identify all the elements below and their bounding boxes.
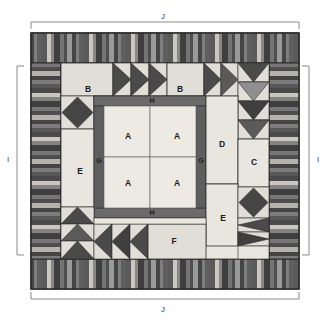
patch-E-right xyxy=(206,184,238,246)
diamond-block-top-left xyxy=(61,96,94,129)
border-strip-top xyxy=(31,33,299,63)
flying-geese-right-down-group xyxy=(238,63,269,139)
border-strip-bottom xyxy=(31,259,299,289)
patch-B-top-left xyxy=(61,63,113,96)
filler-below-center xyxy=(94,218,206,224)
patch-B-top-right xyxy=(167,63,204,96)
flying-geese-top-group xyxy=(113,63,167,96)
border-strip-left xyxy=(31,63,61,259)
dimension-bracket-right xyxy=(302,66,309,255)
patch-E-left xyxy=(61,129,98,207)
dimension-bracket-top xyxy=(31,22,299,29)
quilt-illustration: B B xyxy=(0,0,326,322)
sashing-G-left xyxy=(94,106,104,208)
flying-geese-bottom-right-group xyxy=(238,218,269,246)
sashing-H-bottom xyxy=(94,208,206,218)
dimension-bracket-left xyxy=(17,66,24,255)
dimension-label-right: I xyxy=(312,156,324,164)
dimension-label-top: J xyxy=(0,13,326,21)
sashing-H-top xyxy=(94,96,206,106)
patch-A-bottom-left xyxy=(104,157,150,208)
patch-D xyxy=(206,96,238,184)
patch-A-top-left xyxy=(104,106,150,157)
patch-A-bottom-right xyxy=(150,157,196,208)
diamond-block-bottom-right xyxy=(238,187,269,218)
quilt-assembly-diagram: B B xyxy=(0,0,326,322)
dimension-bracket-bottom xyxy=(31,292,299,299)
patch-F xyxy=(148,224,206,259)
dimension-label-bottom: J xyxy=(0,306,326,314)
flying-geese-bottom-left-up-group xyxy=(61,207,94,259)
flying-geese-bottom-group xyxy=(94,224,148,259)
border-strip-right xyxy=(269,63,299,259)
patch-A-top-right xyxy=(150,106,196,157)
sashing-G-right xyxy=(196,106,206,208)
flying-geese-top-right-group xyxy=(204,63,238,96)
patch-corner-bottom-right xyxy=(238,246,269,259)
dimension-label-left: I xyxy=(2,156,14,164)
patch-C xyxy=(238,139,269,187)
